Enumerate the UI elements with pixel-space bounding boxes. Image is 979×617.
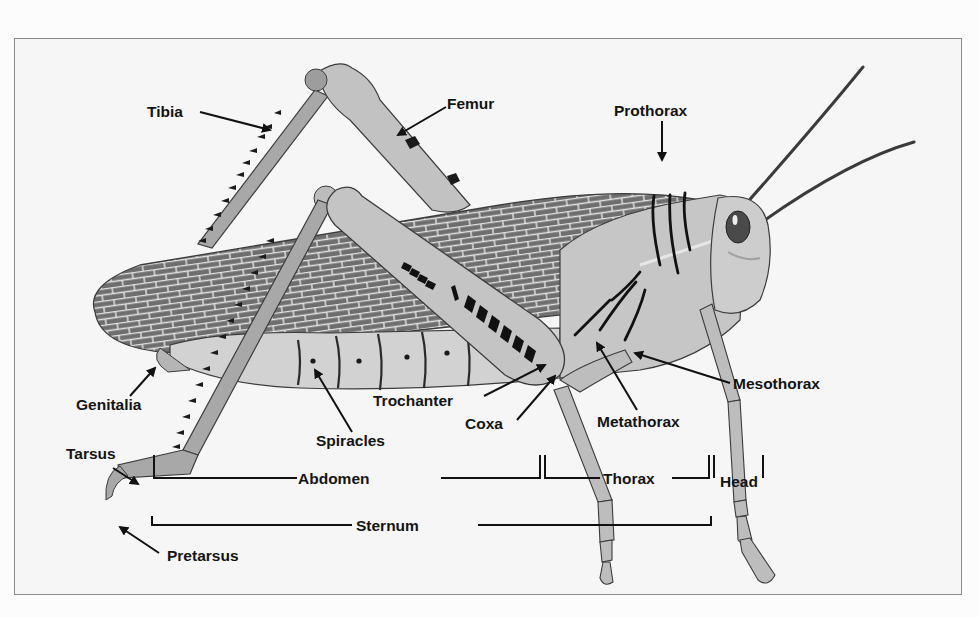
- antennae: [745, 67, 914, 222]
- femur-pointer: [398, 107, 446, 135]
- pretarsus-pointer: [120, 527, 159, 553]
- label-metathorax: Metathorax: [597, 414, 680, 430]
- label-genitalia: Genitalia: [76, 397, 141, 413]
- head: [711, 197, 771, 314]
- label-tibia: Tibia: [147, 104, 183, 120]
- bracket-label-sternum: Sternum: [356, 518, 419, 534]
- label-trochanter: Trochanter: [373, 393, 453, 409]
- grasshopper-illustration: [0, 0, 979, 617]
- region-brackets: [152, 455, 763, 525]
- label-tarsus: Tarsus: [66, 446, 116, 462]
- label-femur: Femur: [447, 96, 494, 112]
- bracket-label-abdomen: Abdomen: [298, 471, 369, 487]
- label-mesothorax: Mesothorax: [733, 376, 820, 392]
- sternum-bracket: [152, 516, 711, 525]
- label-prothorax: Prothorax: [614, 103, 687, 119]
- middle-leg: [554, 350, 632, 584]
- label-spiracles: Spiracles: [316, 433, 385, 449]
- figure-caption: [0, 606, 979, 617]
- front-leg: [700, 304, 775, 583]
- tibia-pointer: [200, 112, 270, 130]
- genitalia-pointer: [130, 368, 155, 396]
- bracket-label-thorax: Thorax: [603, 471, 655, 487]
- label-coxa: Coxa: [465, 416, 503, 432]
- bracket-label-head: Head: [720, 474, 758, 490]
- label-pretarsus: Pretarsus: [167, 548, 239, 564]
